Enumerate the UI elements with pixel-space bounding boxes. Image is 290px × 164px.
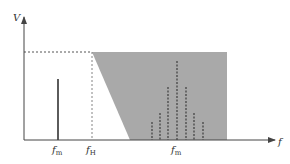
spectrum-diagram: V f fm fH fm [0, 0, 290, 164]
fm-low-label: fm [51, 144, 63, 157]
fh-label-sub: H [90, 149, 96, 157]
fm-high-label: fm [170, 144, 182, 157]
y-axis-label: V [13, 12, 22, 23]
fh-label: fH [85, 144, 96, 157]
fm-high-label-sub: m [175, 149, 182, 157]
fm-low-label-sub: m [56, 149, 63, 157]
shaded-region [92, 52, 227, 140]
x-axis-label: f [277, 136, 284, 147]
